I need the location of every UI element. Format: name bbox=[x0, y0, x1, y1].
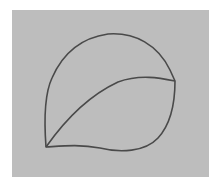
inner-curve bbox=[46, 77, 175, 147]
outer-curve bbox=[45, 34, 175, 151]
leaf-sketch bbox=[0, 0, 219, 188]
